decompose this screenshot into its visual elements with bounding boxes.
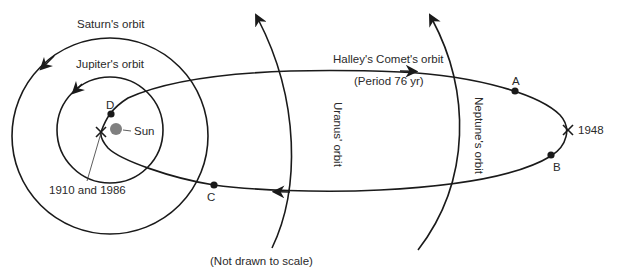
point-d xyxy=(107,110,114,117)
point-a-label: A xyxy=(512,75,520,87)
perihelion-label-leader xyxy=(87,133,101,181)
comet-orbit-label: Halley's Comet's orbit xyxy=(333,53,444,65)
uranus-orbit-label: Uranus' orbit xyxy=(332,102,344,168)
point-b xyxy=(547,151,554,158)
period-label: (Period 76 yr) xyxy=(354,75,424,87)
neptune-orbit-label: Neptune's orbit xyxy=(473,97,485,175)
not-to-scale-note: (Not drawn to scale) xyxy=(210,255,313,267)
sun xyxy=(110,123,122,135)
point-a xyxy=(511,87,518,94)
sun-label-leader xyxy=(123,130,131,131)
jupiter-orbit-arrow-icon xyxy=(76,84,82,90)
saturn-orbit-label: Saturn's orbit xyxy=(77,18,145,30)
aphelion-marker-icon xyxy=(563,125,573,135)
perihelion-years-label: 1910 and 1986 xyxy=(49,184,126,196)
aphelion-year-label: 1948 xyxy=(578,124,604,136)
sun-label: Sun xyxy=(134,125,154,137)
point-c xyxy=(210,181,217,188)
point-b-label: B xyxy=(553,161,561,173)
uranus-orbit xyxy=(258,19,292,248)
orbit-diagram: Saturn's orbit Jupiter's orbit Halley's … xyxy=(0,0,617,278)
jupiter-orbit-label: Jupiter's orbit xyxy=(76,58,145,70)
saturn-orbit-arrow-icon xyxy=(44,56,54,66)
point-d-label: D xyxy=(106,99,114,111)
point-c-label: C xyxy=(207,191,215,203)
